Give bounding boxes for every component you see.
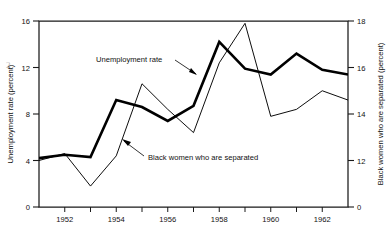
x-tick-1952: 1952 xyxy=(56,215,73,224)
left-tick-8: 8 xyxy=(26,110,30,119)
right-tick-14: 14 xyxy=(357,110,365,119)
left-tick-4: 4 xyxy=(26,157,30,166)
right-tick-12: 12 xyxy=(357,157,365,166)
x-tick-1962: 1962 xyxy=(314,215,331,224)
right-tick-18: 18 xyxy=(357,17,365,26)
chart-figure: 2 0 4 8 12 16 Unemployment rate (percent… xyxy=(0,0,390,242)
bottom-axis: 1952 1954 1956 1958 1960 1962 xyxy=(56,207,330,224)
annotation-arrow-unemployment-rate xyxy=(189,68,197,75)
annotation-black-women-separated: Black women who are separated xyxy=(122,139,258,162)
right-tick-16: 16 xyxy=(357,64,365,73)
chart-svg: 2 0 4 8 12 16 Unemployment rate (percent… xyxy=(0,0,390,242)
bottom-axis-ticks xyxy=(65,207,323,212)
x-tick-1958: 1958 xyxy=(211,215,228,224)
x-tick-1956: 1956 xyxy=(159,215,176,224)
left-tick-16: 16 xyxy=(22,17,30,26)
left-tick-0: 0 xyxy=(26,203,30,212)
right-axis-title: Black women who are separated (percent) xyxy=(376,42,385,185)
left-axis-title: Unemployment rate (percent) xyxy=(6,64,15,163)
right-axis-ticks xyxy=(348,21,354,207)
left-tick-12: 12 xyxy=(22,64,30,73)
left-axis: 0 4 8 12 16 Unemployment rate (percent) xyxy=(6,17,39,212)
x-tick-1960: 1960 xyxy=(262,215,279,224)
left-axis-ticks xyxy=(33,21,39,207)
annotation-label-black-women-separated: Black women who are separated xyxy=(148,153,258,162)
annotation-label-unemployment-rate: Unemployment rate xyxy=(96,55,162,64)
annotation-unemployment-rate: Unemployment rate xyxy=(96,55,197,75)
right-tick-0: 0 xyxy=(357,203,361,212)
right-axis: 0 12 14 16 18 Black women who are separa… xyxy=(348,17,385,212)
series-line-unemployment-rate xyxy=(39,42,348,158)
x-tick-1954: 1954 xyxy=(108,215,125,224)
